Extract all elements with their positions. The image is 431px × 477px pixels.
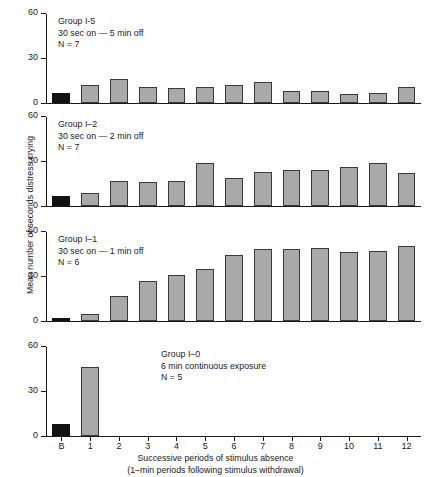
bar-cell <box>220 13 249 103</box>
bar <box>52 424 70 436</box>
panel-1-ytick-30: 30 <box>41 161 46 162</box>
bar <box>196 269 214 322</box>
x-tick-label: 1 <box>76 441 105 451</box>
bar-cell <box>162 346 191 436</box>
bar-cell <box>277 13 306 103</box>
bar-cell <box>220 116 249 206</box>
bar-cell <box>335 13 364 103</box>
x-tick-label: 5 <box>191 441 220 451</box>
bar-cell <box>248 346 277 436</box>
bar <box>168 88 186 103</box>
bar <box>196 87 214 104</box>
x-tick-label: 8 <box>277 441 306 451</box>
bar <box>340 252 358 321</box>
bar <box>340 94 358 103</box>
panel-2-bars <box>47 231 421 321</box>
bar <box>283 249 301 321</box>
bar-cell <box>220 231 249 321</box>
bar <box>225 85 243 103</box>
bar <box>52 196 70 207</box>
panel-1-ytick-0: 0 <box>41 206 46 207</box>
bar-cell <box>47 13 76 103</box>
panel-group-i-2: 0 30 60 Group I–2 30 sec on — 2 min off … <box>46 117 421 207</box>
x-axis-title-line2: (1–min periods following stimulus withdr… <box>0 465 431 477</box>
bar-cell <box>392 13 421 103</box>
x-tick-label: 7 <box>248 441 277 451</box>
panel-group-i-0: 0 30 60 Group I–0 6 min continuous expos… <box>46 347 421 437</box>
bar-cell <box>306 346 335 436</box>
bar <box>110 181 128 207</box>
bar-cell <box>47 116 76 206</box>
bar-cell <box>133 231 162 321</box>
panel-1-ytick-60: 60 <box>41 116 46 117</box>
bar <box>283 170 301 206</box>
bar <box>52 318 70 321</box>
x-axis-title: Successive periods of stimulus absence (… <box>0 453 431 476</box>
bar <box>225 255 243 321</box>
bar <box>369 163 387 207</box>
bar-cell <box>392 116 421 206</box>
bar <box>311 248 329 322</box>
bar-cell <box>335 116 364 206</box>
panel-0-ytick-label-0: 0 <box>33 97 38 107</box>
x-axis-ticks: B123456789101112 <box>46 437 421 453</box>
bar-cell <box>220 346 249 436</box>
bar <box>168 181 186 207</box>
bar-cell <box>105 13 134 103</box>
bar-cell <box>335 231 364 321</box>
panel-0-ytick-0: 0 <box>41 103 46 104</box>
panel-1-ytick-label-60: 60 <box>28 110 38 120</box>
bar-cell <box>162 231 191 321</box>
x-tick-label: 12 <box>392 441 421 451</box>
panel-0-ytick-label-60: 60 <box>28 7 38 17</box>
bar <box>139 182 157 206</box>
bar-cell <box>191 231 220 321</box>
panel-0-ytick-30: 30 <box>41 58 46 59</box>
panel-2-ytick-label-60: 60 <box>28 225 38 235</box>
bar <box>369 251 387 322</box>
x-tick-label: 2 <box>105 441 134 451</box>
bar-cell <box>191 346 220 436</box>
bar-cell <box>277 116 306 206</box>
bar-cell <box>363 346 392 436</box>
bar <box>52 93 70 104</box>
panel-3-ytick-60: 60 <box>41 346 46 347</box>
bar-cell <box>47 231 76 321</box>
x-tick-label: 4 <box>162 441 191 451</box>
bar <box>81 193 99 207</box>
x-tick-label: 11 <box>363 441 392 451</box>
panel-group-i-1: 0 30 60 Group I–1 30 sec on — 1 min off … <box>46 232 421 322</box>
panel-2-ytick-30: 30 <box>41 276 46 277</box>
bar-cell <box>363 13 392 103</box>
panel-1-ytick-label-30: 30 <box>28 155 38 165</box>
bar-cell <box>248 116 277 206</box>
x-tick-label: B <box>47 441 76 451</box>
panel-group-i-5: 0 30 60 Group I-5 30 sec on — 5 min off … <box>46 14 421 104</box>
bar <box>254 172 272 207</box>
bar <box>81 85 99 103</box>
bar-cell <box>392 346 421 436</box>
bar-cell <box>248 231 277 321</box>
bar-cell <box>162 116 191 206</box>
panel-2-x-axis-line <box>46 321 421 322</box>
panel-0-x-axis-line <box>46 103 421 104</box>
bar <box>340 167 358 206</box>
bar <box>196 163 214 207</box>
bar-cell <box>306 116 335 206</box>
bar-cell <box>191 13 220 103</box>
bar-cell <box>363 231 392 321</box>
bar-cell <box>105 346 134 436</box>
bar-cell <box>133 13 162 103</box>
bar <box>225 178 243 207</box>
panel-3-ytick-label-60: 60 <box>28 340 38 350</box>
bar <box>110 79 128 103</box>
panel-3-ytick-30: 30 <box>41 391 46 392</box>
panel-3-bars <box>47 346 421 436</box>
panel-3-ytick-label-0: 0 <box>33 430 38 440</box>
bar-cell <box>306 231 335 321</box>
bar-cell <box>133 116 162 206</box>
panel-2-ytick-label-30: 30 <box>28 270 38 280</box>
bar <box>311 170 329 206</box>
x-tick-label: 10 <box>335 441 364 451</box>
bar-cell <box>248 13 277 103</box>
